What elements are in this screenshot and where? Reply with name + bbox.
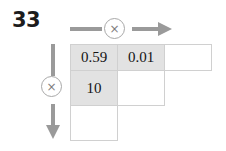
grid-cell-r1c3[interactable]: [165, 45, 212, 71]
grid-cell-r1c1[interactable]: 0.59: [71, 45, 118, 71]
grid-cell-r1c2[interactable]: 0.01: [118, 45, 165, 71]
multiplication-grid: 0.59 0.01 10: [70, 44, 212, 141]
problem-number: 33: [12, 10, 40, 31]
grid-row: [71, 106, 212, 141]
grid-row: 0.59 0.01: [71, 45, 212, 71]
worksheet-problem: 33 × × 0.59 0.01 10: [0, 0, 226, 151]
horizontal-multiply-icon: ×: [104, 18, 125, 39]
horizontal-arrow-head-icon: [158, 22, 172, 36]
grid-spacer-r2c3: [165, 71, 212, 106]
vertical-arrow-shaft-top: [51, 44, 55, 76]
vertical-arrow-shaft-bottom: [51, 104, 55, 127]
grid-cell-r2c1[interactable]: 10: [71, 71, 118, 106]
horizontal-arrow-shaft-right: [132, 27, 160, 31]
grid-spacer-r3c2: [118, 106, 165, 141]
grid-cell-r2c2[interactable]: [118, 71, 165, 106]
vertical-multiply-icon: ×: [41, 76, 62, 97]
horizontal-arrow-shaft-left: [70, 27, 102, 31]
grid-cell-r3c1[interactable]: [71, 106, 118, 141]
grid-spacer-r3c3: [165, 106, 212, 141]
vertical-arrow-head-icon: [46, 125, 60, 139]
grid-row: 10: [71, 71, 212, 106]
